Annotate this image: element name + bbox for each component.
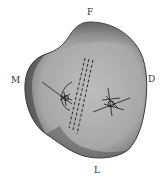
bone-diagram — [0, 0, 163, 178]
label-left: M — [11, 76, 20, 85]
label-bottom: L — [94, 166, 100, 175]
label-top: F — [87, 8, 93, 17]
label-right: D — [148, 75, 155, 84]
